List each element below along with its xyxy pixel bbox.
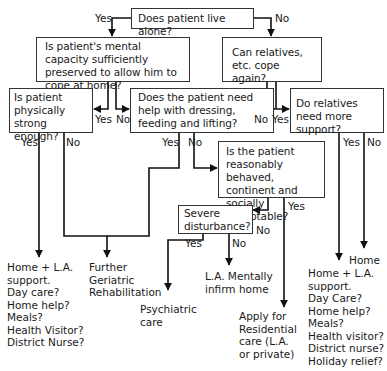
edge-label-help-yes: Yes <box>162 136 179 148</box>
node-relatives-support: Do relatives need more support? <box>290 88 384 133</box>
outcome-home: Home <box>349 254 380 267</box>
edge-label-support-yes: Yes <box>343 136 360 148</box>
edge-label-relatives-yes: Yes <box>272 113 289 125</box>
edge-label-mental-no: No <box>116 113 130 125</box>
outcome-home-la-support-2: Home + L.A. support. Day Care? Home help… <box>308 267 384 367</box>
edge-label-strong-no: No <box>66 136 80 148</box>
outcome-further-rehabilitation: Further Geriatric Rehabilitation <box>89 261 161 299</box>
outcome-home-la-support: Home + L.A. support. Day care? Home help… <box>7 261 84 349</box>
node-mental-capacity: Is patient's mental capacity sufficientl… <box>36 37 190 82</box>
node-physically-strong: Is patient physically strong enough? <box>9 88 93 133</box>
edge-label-behaved-yes: Yes <box>288 200 305 212</box>
edge-label-behaved-no: No <box>256 224 270 236</box>
edge-label-support-no: No <box>367 136 381 148</box>
edge-label-relatives-no: No <box>254 113 268 125</box>
edge-label-live-alone-no: No <box>275 12 289 24</box>
edge-label-help-no: No <box>188 136 202 148</box>
edge-label-live-alone-yes: Yes <box>95 12 112 24</box>
node-live-alone: Does patient live alone? <box>131 8 254 29</box>
node-reasonably-behaved: Is the patient reasonably behaved, conti… <box>218 141 325 198</box>
node-severe-disturbance: Severe disturbance? <box>178 205 253 234</box>
node-need-help: Does the patient need help with dressing… <box>130 88 274 133</box>
outcome-la-mentally-infirm: L.A. Mentally infirm home <box>205 270 273 295</box>
node-relatives-cope: Can relatives, etc. cope again? <box>222 37 322 82</box>
edge-label-severe-no: No <box>232 237 246 249</box>
edge-label-severe-yes: Yes <box>185 237 202 249</box>
edge-label-strong-yes: Yes <box>21 136 38 148</box>
outcome-residential-care: Apply for Residential care (L.A. or priv… <box>239 310 297 360</box>
outcome-psychiatric-care: Psychiatric care <box>140 303 197 328</box>
edge-label-mental-yes: Yes <box>95 113 112 125</box>
